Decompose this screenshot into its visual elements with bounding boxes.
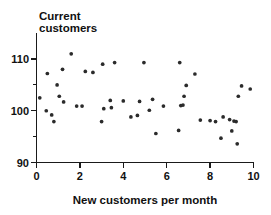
data-point [230,129,234,133]
x-tick-label-10: 10 [247,170,259,182]
y-tick-label-100: 100 [11,105,29,117]
x-axis-tick-labels: 0 2 4 6 8 10 [33,170,259,182]
data-point [240,84,244,88]
data-point [154,132,158,136]
data-point [162,104,166,108]
data-point [219,136,223,140]
data-point [214,120,218,124]
data-point [101,62,105,66]
x-tick-label-8: 8 [207,170,213,182]
y-tick-label-110: 110 [11,53,29,65]
data-point [80,104,84,108]
data-point [138,100,142,104]
data-point [75,104,79,108]
data-point [91,71,95,75]
data-point [50,113,54,117]
data-point [193,72,197,76]
chart-axes [37,33,255,163]
data-point [61,68,65,72]
y-axis-ticks [31,59,37,163]
data-point [177,129,181,133]
y-axis-tick-labels: 110 100 90 [11,53,29,169]
chart-title-line-2: customers [39,22,97,34]
x-tick-label-0: 0 [33,170,39,182]
data-point [178,61,182,65]
data-point [221,115,225,119]
data-point [234,120,238,124]
scatter-points-layer [38,52,252,146]
data-point [83,70,87,74]
x-axis-ticks [37,163,254,169]
data-point [228,118,232,122]
data-point [129,115,133,119]
data-point [181,103,185,107]
data-point [52,120,56,124]
data-point [142,61,146,65]
scatter-plot-figure: Current customers 110 100 90 [0,0,271,215]
x-tick-label-6: 6 [164,170,170,182]
data-point [136,114,140,118]
data-point [69,52,73,56]
data-point [102,107,106,111]
data-point [151,98,155,102]
data-point [184,84,188,88]
x-axis-title: New customers per month [73,194,217,206]
chart-title-line-1: Current [39,10,81,22]
data-point [113,61,117,65]
data-point [182,94,186,98]
data-point [121,99,125,103]
data-point [62,100,66,104]
data-point [100,120,104,124]
data-point [236,94,240,98]
data-point [55,83,59,87]
data-point [147,108,151,112]
data-point [198,118,202,122]
data-point [248,87,252,91]
data-point [208,119,212,123]
x-tick-label-2: 2 [77,170,83,182]
data-point [38,96,42,100]
chart-canvas: Current customers 110 100 90 [0,0,271,215]
data-point [110,106,114,110]
data-point [46,72,50,76]
data-point [57,94,61,98]
chart-title: Current customers [39,10,97,34]
data-point [44,109,48,113]
data-point [235,142,239,146]
data-point [108,99,112,103]
x-tick-label-4: 4 [120,170,127,182]
y-tick-label-90: 90 [17,157,29,169]
